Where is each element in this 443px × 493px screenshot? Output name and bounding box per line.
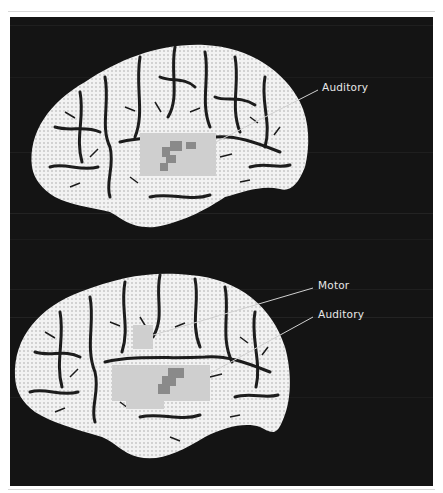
brain-illustration xyxy=(10,17,433,486)
brain-bottom xyxy=(15,274,313,459)
label-bottom-motor: Motor xyxy=(318,279,349,291)
label-top-auditory: Auditory xyxy=(322,81,368,93)
top-rule xyxy=(8,11,435,12)
brain-top xyxy=(32,45,318,227)
brain-figure: Auditory Motor Auditory xyxy=(10,17,433,486)
brain-top-auditory-activation xyxy=(140,133,216,176)
brain-bottom-motor-activation xyxy=(133,325,153,349)
bottom-rule xyxy=(8,489,435,490)
label-bottom-auditory: Auditory xyxy=(318,308,364,320)
